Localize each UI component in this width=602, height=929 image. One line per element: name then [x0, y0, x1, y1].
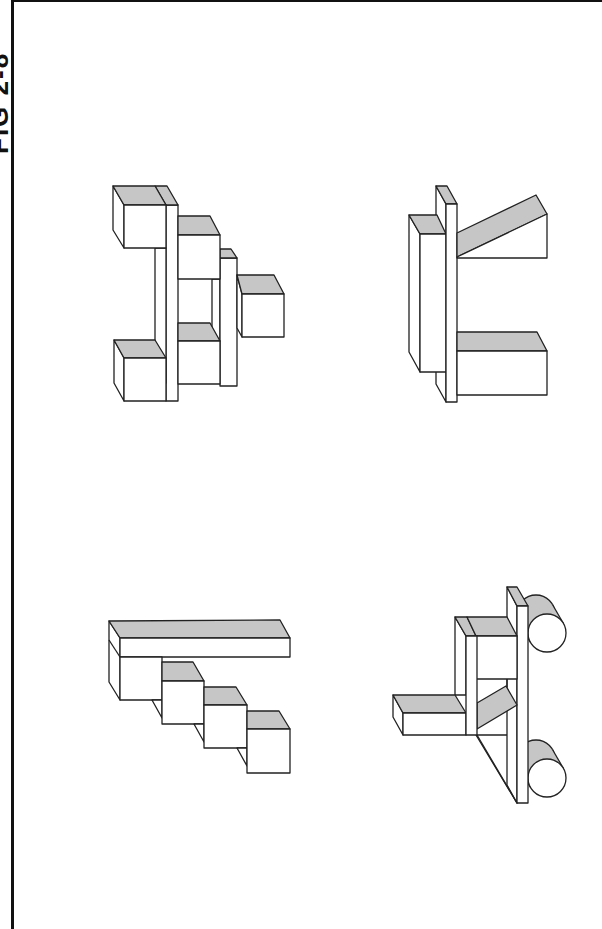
block-face [457, 351, 547, 395]
block-face [409, 215, 420, 372]
block-face [120, 657, 162, 700]
block-face [124, 205, 166, 248]
figure-bottom-right-cylinders [393, 587, 566, 803]
shaded-top-face [457, 332, 547, 351]
block-face [120, 638, 290, 657]
worksheet-page: FIG 2-8 [0, 0, 602, 929]
block-face [194, 724, 204, 742]
block-face [247, 729, 290, 773]
block-face [166, 205, 178, 401]
block-face [178, 341, 220, 384]
shaded-top-face [109, 620, 290, 638]
figure-top-left-cube-assembly [113, 186, 284, 401]
block-face [220, 258, 237, 386]
shaded-top-face [204, 687, 247, 705]
block-face [403, 713, 466, 735]
block-face [152, 700, 162, 718]
block-face [242, 294, 284, 337]
block-face [204, 705, 247, 748]
block-face [162, 681, 204, 724]
diagram-canvas [0, 0, 602, 929]
shaded-top-face [247, 711, 290, 729]
block-face [466, 636, 477, 735]
cylinder-front-end [528, 614, 566, 652]
shaded-top-face [393, 695, 466, 713]
block-face [420, 234, 446, 372]
block-face [237, 748, 247, 766]
shaded-top-face [220, 249, 237, 258]
block-face [178, 235, 220, 279]
figure-bottom-left-staircase [109, 620, 290, 773]
shaded-top-face [162, 662, 204, 681]
block-face [476, 636, 517, 679]
figure-top-right-panel-wedge [409, 186, 547, 402]
block-face [124, 358, 166, 401]
block-face [517, 606, 528, 803]
shaded-top-face [178, 216, 220, 235]
cylinder-front-end [528, 759, 566, 797]
block-face [446, 204, 457, 402]
shaded-top-face [237, 275, 284, 294]
